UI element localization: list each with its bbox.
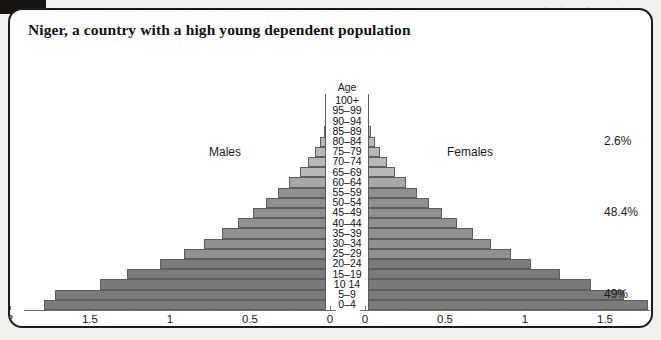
x-tick-label-right: 0.5 [437,313,453,325]
bar-males-5–9 [55,290,330,300]
x-axis-left [24,310,336,311]
x-tick-left [10,306,11,310]
bar-females-40–44 [365,218,457,228]
x-minor-tick-right [565,307,566,310]
bar-males-40–44 [238,218,330,228]
x-minor-tick-left [130,307,131,310]
x-minor-tick-left [210,307,211,310]
x-minor-tick-right [405,307,406,310]
x-minor-tick-right [485,307,486,310]
x-tick-label-left: 1.5 [82,313,98,325]
x-tick-label-left: 0 [327,313,333,325]
bar-males-45–49 [253,208,330,218]
bar-females-20–24 [365,259,531,269]
bar-males-10-14 [100,279,330,289]
bar-males-0–4 [44,300,330,310]
x-tick-right [365,306,366,310]
bar-females-25–29 [365,249,511,259]
bar-males-35–39 [222,228,330,238]
bar-females-65–69 [365,167,395,177]
x-tick-left [170,306,171,310]
bar-females-35–39 [365,228,473,238]
age-label: 0–4 [326,299,368,309]
bar-males-25–29 [184,249,330,259]
bar-males-50–54 [266,198,330,208]
age-axis-title: Age [338,81,357,93]
bar-females-15–19 [365,269,560,279]
x-tick-label-left: 1 [167,313,173,325]
x-tick-right [605,306,606,310]
scanned-page: population dependent high a with a in po… [0,0,661,340]
x-axis-right [360,310,650,311]
x-tick-label-right: 1 [522,313,528,325]
x-tick-label-right: 1.5 [597,313,613,325]
bar-males-30–34 [204,239,330,249]
x-tick-left [250,306,251,310]
bar-females-10-14 [365,279,591,289]
x-tick-right [525,306,526,310]
bar-females-60–64 [365,177,406,187]
bar-females-50–54 [365,198,429,208]
bar-females-55–59 [365,188,417,198]
bar-females-45–49 [365,208,442,218]
population-pyramid-chart: 100+95–9990–9485–8980–8475–7970–7465–696… [10,40,653,328]
bar-females-5–9 [365,290,624,300]
bar-males-55–59 [278,188,330,198]
bar-males-20–24 [160,259,330,269]
x-tick-left [330,306,331,310]
x-tick-label-left: 0.5 [242,313,258,325]
figure-title: Niger, a country with a high young depen… [28,21,411,39]
bar-females-30–34 [365,239,491,249]
x-minor-tick-left [290,307,291,310]
x-minor-tick-right [645,307,646,310]
x-tick-label-right: 0 [362,313,368,325]
x-minor-tick-left [50,307,51,310]
percent-annotation: 48.4% [604,205,638,219]
age-label-column: 100+95–9990–9485–8980–8475–7970–7465–696… [325,94,369,310]
figure-card: Niger, a country with a high young depen… [8,8,653,328]
x-tick-label-left: 2 [8,313,13,325]
x-tick-right [445,306,446,310]
percent-annotation: 2.6% [604,134,631,148]
percent-annotation: 49% [604,287,628,301]
bar-males-60–64 [289,177,330,187]
bar-males-15–19 [127,269,330,279]
x-tick-left [90,306,91,310]
group-label-males: Males [209,145,241,159]
group-label-females: Females [447,145,493,159]
